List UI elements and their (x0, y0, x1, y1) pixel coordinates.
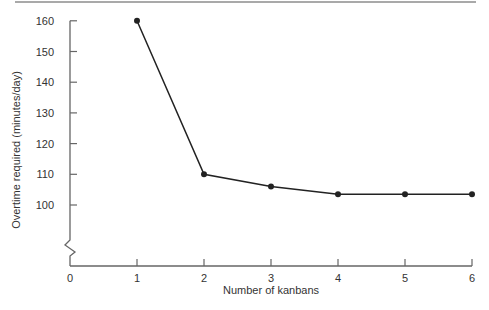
data-series (134, 18, 475, 197)
data-point-marker (268, 184, 274, 190)
data-point-marker (469, 191, 475, 197)
chart: 100110120130140150160 0123456 Overtime r… (0, 0, 489, 310)
x-axis-label: Number of kanbans (223, 284, 319, 296)
data-point-marker (402, 191, 408, 197)
data-point-marker (335, 191, 341, 197)
x-tick-label: 4 (335, 272, 341, 284)
y-tick-label: 130 (36, 107, 54, 119)
x-tick-label: 3 (268, 272, 274, 284)
x-tick-label: 6 (469, 272, 475, 284)
x-tick-label: 1 (134, 272, 140, 284)
y-tick-label: 120 (36, 138, 54, 150)
x-tick-label: 0 (67, 272, 73, 284)
y-axis-label: Overtime required (minutes/day) (10, 71, 22, 229)
y-tick-label: 100 (36, 199, 54, 211)
y-tick-label: 140 (36, 76, 54, 88)
series-line (137, 21, 472, 194)
y-tick-label: 160 (36, 15, 54, 27)
x-tick-label: 5 (402, 272, 408, 284)
y-axis: 100110120130140150160 (36, 15, 77, 266)
data-point-marker (134, 18, 140, 24)
y-tick-label: 150 (36, 46, 54, 58)
x-tick-label: 2 (201, 272, 207, 284)
y-tick-label: 110 (36, 168, 54, 180)
x-axis: 0123456 (67, 259, 475, 284)
data-point-marker (201, 171, 207, 177)
